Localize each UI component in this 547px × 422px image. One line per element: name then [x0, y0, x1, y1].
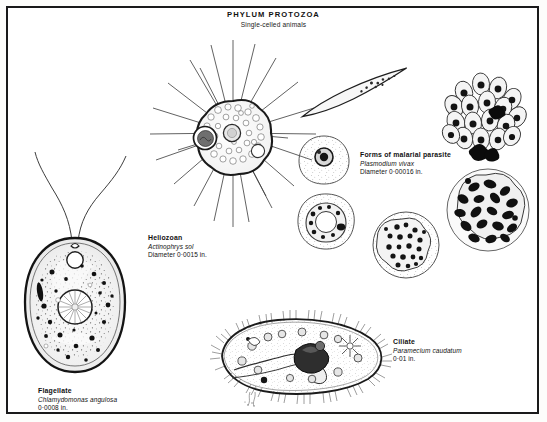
merozoite-cluster: [439, 72, 530, 161]
protozoa-plate: PHYLUM PROTOZOA Single-celled animals: [0, 0, 547, 422]
merozoites: [439, 72, 530, 151]
figure-flagellate: [8, 150, 148, 385]
pyrenoid: [58, 290, 92, 324]
page-subtitle: Single-celled animals: [0, 21, 547, 29]
infected-cell-ring: [299, 136, 349, 184]
flagellate-size: 0·0008 in.: [38, 404, 117, 412]
large-vacuole: [251, 144, 264, 157]
caption-heliozoan: Heliozoan Actinophrys sol Diameter 0·001…: [148, 234, 207, 260]
malaria-size: Diameter 0·00016 in.: [360, 168, 451, 176]
heliozoan-common-name: Heliozoan: [148, 234, 207, 243]
ciliate-size: 0·01 in.: [393, 355, 462, 363]
figure-ciliate: [198, 306, 398, 406]
trophozoite-ring: [298, 194, 354, 249]
mature-schizont: [447, 169, 529, 251]
caption-flagellate: Flagellate Chlamydomonas angulosa 0·0008…: [38, 387, 117, 413]
heliozoan-size: Diameter 0·0015 in.: [148, 251, 207, 259]
caption-malaria: Forms of malarial parasite Plasmodium vi…: [360, 151, 451, 177]
malaria-common-name: Forms of malarial parasite: [360, 151, 451, 160]
food-vacuole: [194, 127, 217, 150]
trophozoite-amoeboid: [373, 212, 439, 278]
caption-ciliate: Ciliate Paramecium caudatum 0·01 in.: [393, 338, 462, 364]
micronucleus: [315, 341, 324, 350]
figure-malaria-group: [296, 70, 542, 285]
malaria-scientific-name: Plasmodium vivax: [360, 160, 451, 168]
ciliate-common-name: Ciliate: [393, 338, 462, 347]
ciliate-scientific-name: Paramecium caudatum: [393, 347, 462, 355]
flagella-group: [35, 152, 126, 242]
flagellate-common-name: Flagellate: [38, 387, 117, 396]
papilla: [71, 244, 79, 249]
heliozoan-scientific-name: Actinophrys sol: [148, 243, 207, 251]
figure-heliozoan: [148, 38, 318, 228]
flagellate-scientific-name: Chlamydomonas angulosa: [38, 396, 117, 404]
title-block: PHYLUM PROTOZOA Single-celled animals: [0, 11, 547, 28]
sporozoite: [298, 68, 412, 118]
page-title: PHYLUM PROTOZOA: [0, 11, 547, 20]
